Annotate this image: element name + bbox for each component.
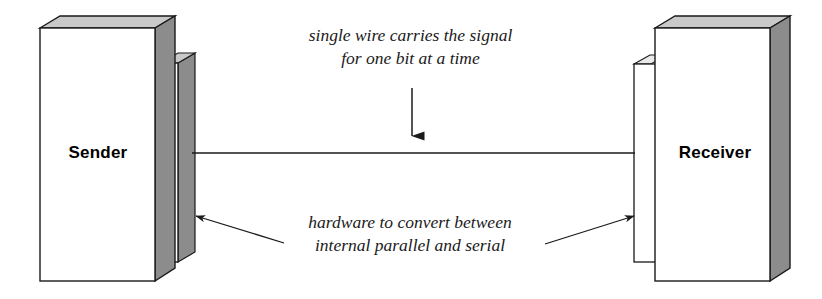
sender-label: Sender	[40, 143, 156, 163]
hardware-annotation-line-1: hardware to convert between	[255, 211, 565, 234]
sender-top-face	[40, 16, 175, 28]
receiver-label: Receiver	[655, 143, 775, 163]
sender-adapter-side-face	[178, 53, 195, 262]
wire-annotation-line-2: for one bit at a time	[258, 47, 563, 70]
serial-transmission-diagram: Sender Receiver single wire carries the …	[0, 0, 822, 299]
sender-side-face	[155, 16, 175, 281]
hardware-annotation-text: hardware to convert between internal par…	[255, 211, 565, 257]
hardware-annotation-line-2: internal parallel and serial	[255, 234, 565, 257]
wire-annotation-line-1: single wire carries the signal	[258, 24, 563, 47]
receiver-top-face	[655, 16, 790, 28]
wire-annotation-text: single wire carries the signal for one b…	[258, 24, 563, 70]
